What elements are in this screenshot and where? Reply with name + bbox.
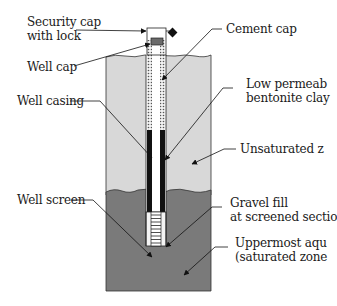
well-casing-right	[160, 130, 165, 212]
label-well-casing: Well casing	[17, 94, 84, 108]
well-screen	[151, 212, 161, 246]
label-security-cap: Security cap with lock	[27, 15, 101, 43]
label-security-cap-line1: Security cap	[27, 15, 101, 29]
label-well-cap: Well cap	[27, 60, 77, 74]
label-unsaturated-zone: Unsaturated z	[240, 142, 324, 156]
well-cap	[151, 38, 163, 45]
label-security-cap-line2: with lock	[27, 29, 101, 43]
lock-icon	[166, 28, 177, 38]
well-casing-left	[147, 130, 152, 212]
label-well-screen: Well screen	[17, 193, 85, 207]
label-gravel-fill-line1: Gravel fill	[230, 196, 337, 210]
label-gravel-fill: Gravel fill at screened sectio	[230, 196, 337, 224]
label-aquifer-line1: Uppermost aqu	[235, 236, 327, 250]
label-cement-cap: Cement cap	[226, 22, 297, 36]
bentonite-seal-right	[160, 40, 165, 130]
label-aquifer: Uppermost aqu (saturated zone	[235, 236, 327, 264]
label-bentonite-line2: bentonite clay	[246, 91, 330, 105]
label-bentonite: Low permeab bentonite clay	[246, 77, 330, 105]
label-bentonite-line1: Low permeab	[246, 77, 330, 91]
label-gravel-fill-line2: at screened sectio	[230, 210, 337, 224]
bentonite-seal-left	[147, 40, 152, 130]
label-aquifer-line2: (saturated zone	[235, 250, 327, 264]
